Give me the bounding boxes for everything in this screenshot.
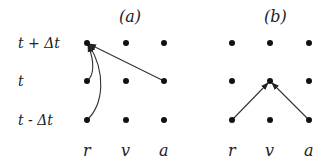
dot [161,40,167,46]
arrow-r-tminus-to-v-t [232,83,268,120]
row-label-t: t [18,73,24,89]
panel-label-a: (a) [119,7,141,26]
panel-label-b: (b) [264,7,287,26]
dot [161,78,167,84]
col-label-a-a: a [159,141,169,160]
dot [306,78,312,84]
arrow-a-tminus-to-v-t [272,83,309,120]
dot [267,40,273,46]
col-label-a-b: a [304,141,314,160]
row-label-t-minus-dt: t - Δt [18,112,53,128]
arrows-panel-b [232,83,309,120]
dependency-diagram: (a) (b) t + Δt t t - Δt r v a r v a [0,0,336,162]
dot [123,78,129,84]
dot [229,40,235,46]
dot [229,78,235,84]
dot-grid-panel-a [84,40,167,123]
dot [161,117,167,123]
dot [84,78,90,84]
dot [306,117,312,123]
dot [123,40,129,46]
col-label-r-a: r [83,141,92,160]
dot [306,40,312,46]
dot [229,117,235,123]
col-label-v-a: v [121,141,130,160]
col-label-r-b: r [228,141,237,160]
dot [84,40,90,46]
row-label-t-plus-dt: t + Δt [18,35,60,51]
dot [267,78,273,84]
col-label-v-b: v [265,141,274,160]
dot [267,117,273,123]
dot [84,117,90,123]
dot [123,117,129,123]
